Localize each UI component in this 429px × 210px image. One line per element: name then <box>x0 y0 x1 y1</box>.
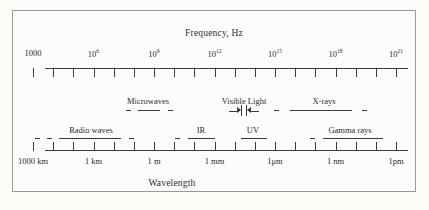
axis-tick-label: 1 nm <box>327 156 344 166</box>
visible-light-marker <box>227 105 261 117</box>
radio-dash-3 <box>129 138 134 139</box>
xrays-dash-right <box>362 110 367 111</box>
radio-dash-1 <box>35 138 40 139</box>
em-spectrum-figure: Frequency, Hz 10001061091012101510181021… <box>0 0 429 210</box>
axis-tick-label: 1015 <box>268 48 282 59</box>
axis-tick <box>275 142 276 151</box>
frequency-axis-title: Frequency, Hz <box>13 29 415 39</box>
wavelength-axis-title-text: Wavelength <box>148 178 195 188</box>
axis-tick <box>94 68 95 77</box>
microwaves-dash-left <box>126 110 131 111</box>
axis-tick <box>194 68 195 77</box>
radio-dash-2 <box>47 138 52 139</box>
axis-tick <box>114 142 115 151</box>
ir-dash-left <box>175 138 180 139</box>
axis-tick <box>255 68 256 77</box>
radio-bar <box>59 138 121 139</box>
axis-tick-label: 1pm <box>388 156 403 166</box>
axis-tick <box>235 142 236 151</box>
axis-tick-label: 1021 <box>389 48 403 59</box>
band-label-radio-waves: Radio waves <box>69 125 113 135</box>
axis-tick <box>94 142 95 151</box>
band-label-xrays: X-rays <box>312 96 335 106</box>
axis-tick <box>174 68 175 77</box>
axis-tick <box>275 68 276 77</box>
axis-tick-label: 1μm <box>267 156 282 166</box>
axis-tick <box>33 142 34 151</box>
axis-tick <box>315 68 316 77</box>
axis-tick <box>194 142 195 151</box>
uv-bar <box>241 138 267 139</box>
axis-tick <box>315 142 316 151</box>
axis-tick <box>134 142 135 151</box>
axis-tick-label: 1000 km <box>18 156 48 166</box>
wavelength-axis-line <box>45 150 408 151</box>
axis-tick-label: 109 <box>148 48 159 59</box>
microwaves-dash-right <box>168 110 173 111</box>
axis-tick <box>235 68 236 77</box>
figure-frame: Frequency, Hz 10001061091012101510181021… <box>12 10 416 192</box>
axis-tick-label: 1 m <box>148 156 161 166</box>
axis-tick <box>295 68 296 77</box>
axis-tick-label: 1 mm <box>205 156 225 166</box>
axis-tick <box>396 142 397 151</box>
band-label-ultraviolet: UV <box>247 125 259 135</box>
axis-tick <box>215 68 216 77</box>
axis-tick <box>255 142 256 151</box>
microwaves-bar <box>138 110 160 111</box>
axis-tick <box>154 142 155 151</box>
axis-tick <box>73 68 74 77</box>
axis-tick <box>356 68 357 77</box>
axis-tick-label: 106 <box>88 48 99 59</box>
axis-tick-label: 1018 <box>328 48 342 59</box>
axis-tick <box>295 142 296 151</box>
axis-tick <box>336 142 337 151</box>
gamma-bar <box>323 138 383 139</box>
gamma-dash-left <box>310 138 315 139</box>
band-label-infrared: IR <box>197 125 206 135</box>
band-label-microwaves: Microwaves <box>127 96 169 106</box>
axis-tick <box>376 142 377 151</box>
axis-tick <box>73 142 74 151</box>
axis-tick <box>134 68 135 77</box>
axis-tick-label: 1012 <box>207 48 221 59</box>
frequency-axis-line <box>45 68 408 69</box>
axis-tick-label: 1 km <box>85 156 102 166</box>
axis-tick <box>376 68 377 77</box>
axis-tick <box>154 68 155 77</box>
axis-tick <box>336 68 337 77</box>
axis-tick <box>33 68 34 77</box>
axis-tick <box>215 142 216 151</box>
ir-bar <box>188 138 215 139</box>
axis-tick <box>396 68 397 77</box>
xrays-dash-left <box>274 110 279 111</box>
axis-tick <box>53 142 54 151</box>
wavelength-axis-title: Wavelength <box>13 179 415 189</box>
axis-tick <box>114 68 115 77</box>
band-label-gamma-rays: Gamma rays <box>328 125 371 135</box>
axis-tick <box>174 142 175 151</box>
axis-tick <box>53 68 54 77</box>
axis-tick-label: 1000 <box>25 48 42 58</box>
xrays-bar <box>290 110 352 111</box>
axis-tick <box>356 142 357 151</box>
